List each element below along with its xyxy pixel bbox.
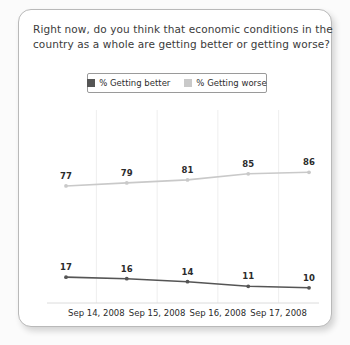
data-point[interactable]: [307, 286, 311, 290]
chart-title: Right now, do you think that economic co…: [33, 22, 319, 51]
chart-title-line-2: country as a whole are getting better or…: [33, 37, 319, 52]
data-point[interactable]: [186, 280, 190, 284]
legend-item-getting-worse[interactable]: % Getting worse: [184, 78, 266, 88]
data-point[interactable]: [246, 172, 250, 176]
legend-swatch-getting-worse: [184, 79, 192, 87]
data-point-label: 85: [242, 159, 254, 169]
data-point-label: 81: [182, 165, 194, 175]
data-point[interactable]: [125, 277, 129, 281]
data-point-label: 16: [121, 264, 133, 274]
chart-legend: % Getting better % Getting worse: [87, 73, 267, 93]
x-axis-tick-label: Sep 16, 2008: [190, 308, 247, 318]
data-point[interactable]: [64, 275, 68, 279]
series-labels-getting-worse: 7779818586: [60, 157, 315, 181]
x-axis-tick-label: Sep 14, 2008: [68, 308, 125, 318]
chart-card: Right now, do you think that economic co…: [18, 9, 332, 327]
data-point-label: 86: [303, 157, 315, 167]
legend-label-getting-better: % Getting better: [99, 78, 170, 88]
data-point[interactable]: [64, 184, 68, 188]
legend-item-getting-better[interactable]: % Getting better: [87, 78, 170, 88]
data-point-label: 79: [121, 168, 133, 178]
data-point-label: 11: [242, 271, 254, 281]
data-point[interactable]: [307, 170, 311, 174]
data-point-label: 14: [182, 267, 194, 277]
chart-x-tick-labels: Sep 14, 2008Sep 15, 2008Sep 16, 2008Sep …: [68, 308, 307, 318]
line-chart-svg: 7779818586 1716141110 Sep 14, 2008Sep 15…: [29, 106, 323, 318]
data-point-label: 10: [303, 273, 315, 283]
chart-plot-area: 7779818586 1716141110 Sep 14, 2008Sep 15…: [29, 106, 323, 318]
series-labels-getting-better: 1716141110: [60, 262, 315, 283]
chart-title-line-1: Right now, do you think that economic co…: [33, 22, 319, 37]
data-point[interactable]: [186, 178, 190, 182]
x-axis-tick-label: Sep 17, 2008: [250, 308, 307, 318]
data-point[interactable]: [125, 181, 129, 185]
data-point-label: 17: [60, 262, 72, 272]
data-point[interactable]: [246, 284, 250, 288]
legend-label-getting-worse: % Getting worse: [196, 78, 266, 88]
legend-swatch-getting-better: [87, 79, 95, 87]
x-axis-tick-label: Sep 15, 2008: [129, 308, 186, 318]
data-point-label: 77: [60, 171, 72, 181]
